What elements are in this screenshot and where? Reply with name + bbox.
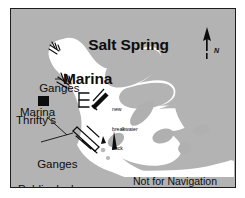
label-new-breakwater-dock: new breakwater dock [112,93,138,165]
rock-dot-1 [101,148,106,153]
label-ganges-marina: Ganges Marina [20,70,79,142]
label-ganges-marina-line1: Ganges [39,82,79,94]
label-breakwater-line2: breakwater [112,126,138,133]
label-not-for-navigation: Not for Navigation [133,176,217,187]
label-ganges-public-line2: Public docks [18,183,83,188]
map-title-line1: Salt Spring [88,36,169,53]
label-breakwater-line1: new [112,106,138,113]
label-breakwater-line3: dock [112,145,138,152]
rock-dot-2 [106,156,110,160]
label-ganges-public-docks: Ganges Public docks [18,146,83,188]
label-ganges-public-line1: Ganges [37,158,77,170]
nautical-chart-figure: Salt Spring Marina Ganges Marina Thrifty… [0,0,245,198]
label-thriftys: Thrifty's [16,114,56,126]
map-frame: Salt Spring Marina Ganges Marina Thrifty… [10,8,236,188]
north-arrow-letter: N [214,47,219,54]
